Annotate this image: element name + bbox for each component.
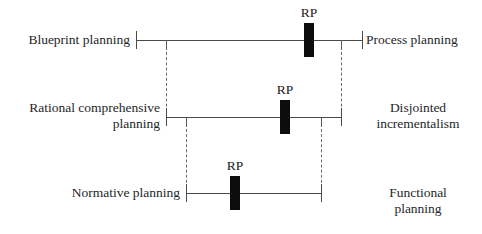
row-3-left-label: Normative planning [6, 185, 180, 201]
row-2-right-label: Disjointed incrementalism [356, 100, 480, 132]
row-3-rp-marker [230, 176, 240, 210]
row-2-right-end-tick [341, 108, 342, 126]
row-3-right-end-tick [321, 184, 322, 202]
row-2-left-stub-tick [186, 117, 187, 127]
row-1-axis-line [136, 40, 362, 41]
row-2-rp-label: RP [265, 83, 305, 97]
row-1-left-stub-tick [166, 40, 167, 50]
row-1-right-stub-tick [341, 40, 342, 50]
row-2-axis-line [166, 117, 341, 118]
row-2-right-stub-tick [321, 117, 322, 127]
row-3-rp-label: RP [215, 159, 255, 173]
row-1-rp-label: RP [289, 6, 329, 20]
diagram-canvas: Blueprint planning Process planning RP R… [0, 0, 482, 234]
row-2-rp-marker [280, 100, 290, 134]
row-1-rp-marker [304, 23, 314, 57]
row-1-left-label: Blueprint planning [6, 32, 130, 48]
row-3-right-label: Functional planning [356, 185, 480, 217]
row-3-left-end-tick [186, 184, 187, 202]
row-2-left-end-tick [166, 108, 167, 126]
row-3-axis-line [186, 193, 321, 194]
row-1-left-end-tick [136, 31, 137, 49]
row-1-right-label: Process planning [366, 32, 480, 48]
row-2-left-label: Rational comprehensive planning [6, 100, 160, 132]
row-1-right-end-tick [362, 31, 363, 49]
